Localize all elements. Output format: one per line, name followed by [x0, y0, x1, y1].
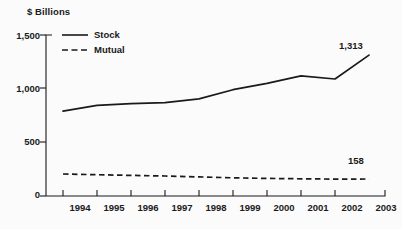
data-label-mutual-end: 158 — [348, 155, 364, 166]
x-tick-label-1994: 1994 — [63, 202, 97, 213]
x-tick-label-2002: 2002 — [335, 202, 369, 213]
x-tick-label-1999: 1999 — [233, 202, 267, 213]
x-tick-label-1995: 1995 — [97, 202, 131, 213]
chart-figure: $ Billions 1,500 1,000 500 0 Stock Mutua… — [0, 0, 402, 229]
y-axis-line — [46, 35, 52, 196]
x-tick-label-2001: 2001 — [301, 202, 335, 213]
series-line-mutual — [63, 174, 369, 179]
x-tick-label-1996: 1996 — [131, 202, 165, 213]
x-tick-label-1997: 1997 — [165, 202, 199, 213]
x-tick-label-2003: 2003 — [369, 202, 402, 213]
series-line-stock — [63, 55, 369, 111]
data-label-stock-end: 1,313 — [339, 40, 363, 51]
x-tick-label-2000: 2000 — [267, 202, 301, 213]
plot-area — [0, 0, 402, 229]
x-tick-label-1998: 1998 — [199, 202, 233, 213]
